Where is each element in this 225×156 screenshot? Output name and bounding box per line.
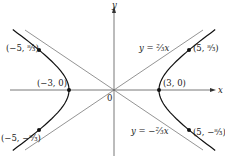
point-label-neg5-pos: (−5, ⁸⁄₃) xyxy=(6,43,39,53)
asymptote-negative-label: y = −⅔x xyxy=(130,126,169,136)
origin-label: 0 xyxy=(107,93,112,103)
diagram-canvas: x y 0 y = ⅔x y = −⅔x (−3, 0) (3, 0) (−5,… xyxy=(0,0,225,156)
x-axis-label: x xyxy=(218,85,223,95)
asymptote-positive-label: y = ⅔x xyxy=(138,43,170,53)
point-neg5-neg xyxy=(37,128,41,132)
point-label-5-pos: (5, ⁸⁄₃) xyxy=(193,43,219,53)
x-axis-arrow-icon xyxy=(210,88,216,92)
vertex-point-right xyxy=(157,88,161,92)
point-5-neg xyxy=(187,128,191,132)
vertex-label-left: (−3, 0) xyxy=(37,78,67,88)
vertex-label-right: (3, 0) xyxy=(163,78,186,88)
point-5-pos xyxy=(187,48,191,52)
y-axis-label: y xyxy=(111,0,117,10)
hyperbola-diagram: x y 0 y = ⅔x y = −⅔x (−3, 0) (3, 0) (−5,… xyxy=(0,0,225,156)
vertex-point-left xyxy=(67,88,71,92)
point-label-5-neg: (5, −⁸⁄₃) xyxy=(193,127,225,137)
point-label-neg5-neg: (−5, −⁸⁄₃) xyxy=(1,133,41,143)
